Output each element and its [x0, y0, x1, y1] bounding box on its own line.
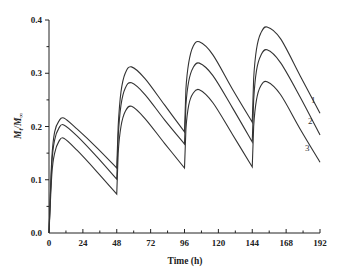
- curve-label-2: 2: [308, 116, 313, 126]
- x-tick-label: 72: [146, 238, 156, 248]
- y-axis-ticks: 0.00.10.20.30.4: [31, 15, 49, 238]
- y-tick-label: 0.2: [31, 122, 43, 132]
- plot-area: 024487296120144168192 0.00.10.20.30.4 12…: [31, 15, 328, 248]
- curve-label-1: 1: [311, 95, 316, 105]
- x-tick-label: 48: [112, 238, 122, 248]
- y-tick-label: 0.0: [31, 228, 43, 238]
- curve-label-3: 3: [305, 143, 310, 153]
- y-axis-title: Mt/M∞: [13, 113, 24, 140]
- y-tick-label: 0.1: [31, 175, 43, 185]
- x-axis-title: Time (h): [168, 256, 203, 267]
- y-tick-label: 0.4: [31, 15, 43, 25]
- x-tick-label: 0: [47, 238, 52, 248]
- curves: [49, 27, 320, 233]
- y-axis-title-slash: /M: [13, 117, 23, 130]
- x-tick-label: 144: [246, 238, 260, 248]
- x-axis-ticks: 024487296120144168192: [47, 229, 328, 248]
- y-axis-title-sub2: ∞: [17, 113, 24, 118]
- release-profile-chart: 024487296120144168192 0.00.10.20.30.4 12…: [0, 0, 338, 276]
- x-tick-label: 168: [279, 238, 293, 248]
- curve-series-3: [49, 81, 320, 233]
- x-tick-label: 24: [78, 238, 88, 248]
- y-tick-label: 0.3: [31, 68, 43, 78]
- x-tick-label: 96: [180, 238, 190, 248]
- x-tick-label: 192: [313, 238, 327, 248]
- x-tick-label: 120: [212, 238, 226, 248]
